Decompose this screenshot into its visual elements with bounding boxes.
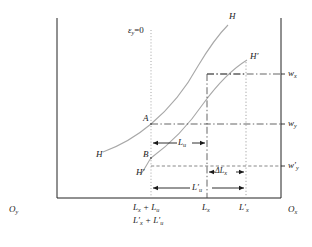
epsilon-zero-label: εy=0 — [128, 26, 144, 35]
curve-label-H-prime-top: H′ — [250, 52, 258, 61]
xtick-label-lx: Lx — [202, 203, 210, 212]
origin-label-Oy: Oy — [9, 205, 18, 214]
curve-label-H-top: H — [229, 12, 236, 21]
point-label-B: B — [143, 150, 149, 159]
curve-label-H-left: H — [96, 150, 103, 159]
point-label-A: A — [143, 114, 149, 123]
curve-label-H-prime-bottom: H′ — [136, 168, 144, 177]
origin-label-Ox: Ox — [288, 205, 297, 214]
curve-H-prime — [141, 60, 247, 174]
curve-H — [103, 25, 228, 152]
delta-lx-arrow-label: ΔLx — [215, 167, 227, 175]
point-markers — [150, 123, 152, 159]
wage-level-lines — [151, 74, 281, 124]
lu-prime-arrow-label: L′u — [192, 183, 202, 192]
xtick-label-lx-prime-plus-lu-prime: L′x + L′u — [133, 216, 163, 225]
figure-container: εy=0 H H′ H H′ A B Lu ΔLx L′u wx wy w′y … — [0, 0, 312, 247]
wage-label-wy-prime: w′y — [288, 161, 299, 170]
xtick-label-lx-plus-lu: Lx + Lu — [133, 203, 159, 212]
point-B-dot — [150, 157, 152, 159]
curve-group — [103, 25, 247, 174]
wage-label-wx: wx — [288, 69, 297, 78]
point-A-dot — [150, 123, 152, 125]
lu-arrow-label: Lu — [178, 138, 186, 147]
right-axis-ticks — [281, 74, 285, 166]
axis-group — [57, 18, 281, 198]
wage-label-wy: wy — [288, 119, 297, 128]
xtick-label-lx-prime: L′x — [239, 203, 249, 212]
